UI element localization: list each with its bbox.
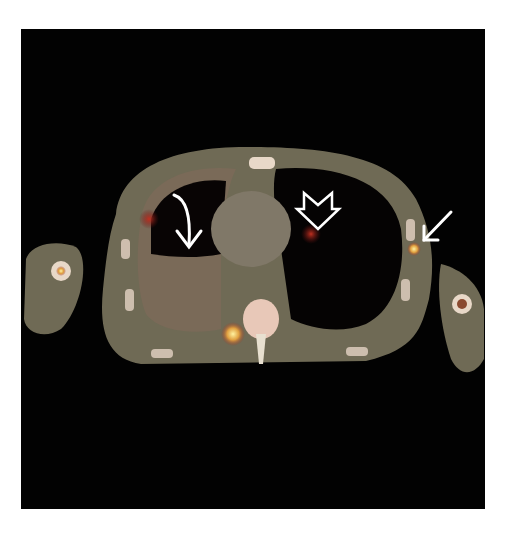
scan-graphic xyxy=(21,29,485,509)
pet-ct-image xyxy=(21,29,485,509)
torso xyxy=(102,147,432,364)
straight-arrow-icon xyxy=(424,212,451,240)
